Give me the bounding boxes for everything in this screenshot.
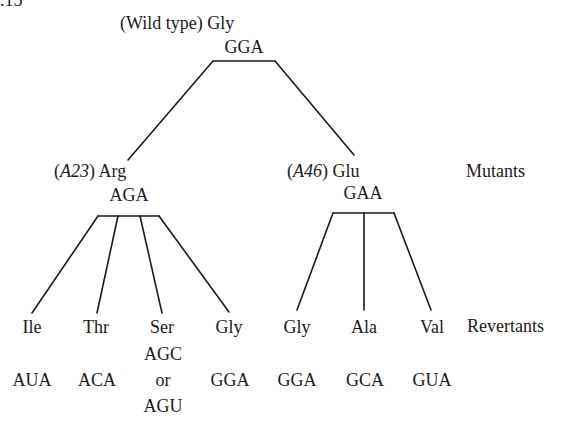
branch-to-ile [32, 216, 98, 313]
tree-connectors [0, 0, 579, 431]
branch-to-gly-a23 [159, 216, 229, 312]
branch-to-val [394, 213, 431, 310]
branch-to-ser [140, 216, 162, 313]
branch-to-thr [97, 216, 118, 313]
branch-to-a46 [275, 61, 354, 155]
branch-to-gly-a46 [297, 213, 333, 310]
branch-to-a23 [128, 61, 213, 160]
